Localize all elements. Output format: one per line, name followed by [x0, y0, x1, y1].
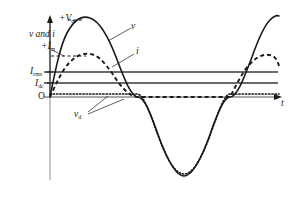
- im-label: +Im: [41, 42, 55, 52]
- vm-label: +Vm: [59, 14, 76, 24]
- origin-label: O: [38, 92, 45, 102]
- idc-label-sub: dc: [38, 83, 44, 89]
- idc-label: Idc: [35, 79, 44, 89]
- vd-leader-lines: [88, 96, 124, 114]
- vm-label-text: +V: [59, 13, 71, 23]
- im-guide-line: [51, 50, 86, 56]
- im-label-text: +I: [41, 41, 51, 51]
- im-label-sub: m: [51, 46, 56, 52]
- x-axis-label: t: [281, 99, 284, 109]
- curve-vd: [50, 94, 279, 174]
- curve-vd-label: vd: [74, 110, 81, 120]
- v-leader-line: [108, 28, 131, 41]
- waveform-figure: v and i +Vm +Im Irms Idc O t v i vd: [0, 0, 294, 197]
- curve-i-label: i: [136, 47, 139, 57]
- vm-label-sub: m: [71, 18, 76, 24]
- y-axis-label: v and i: [29, 30, 55, 40]
- curve-v-label: v: [131, 22, 135, 32]
- vd-label-sub: d: [78, 114, 81, 120]
- irms-label: Irms: [30, 67, 42, 77]
- irms-label-sub: rms: [33, 71, 42, 77]
